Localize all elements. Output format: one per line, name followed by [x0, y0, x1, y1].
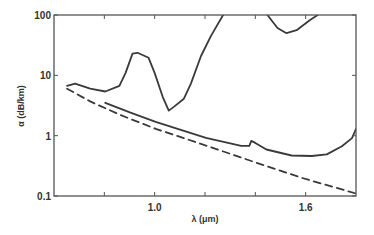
solid-series-line-0 [67, 15, 223, 111]
x-tick-label: 1.0 [148, 202, 162, 213]
axes: 1.01.61001010.1 [34, 10, 356, 213]
solid-series-line-1 [267, 15, 317, 33]
y-axis-label: α (dB/km) [16, 85, 26, 127]
y-tick-label: 100 [34, 10, 51, 21]
y-tick-label: 1 [45, 131, 51, 142]
plot-area [67, 15, 356, 194]
x-axis-label: λ (μm) [191, 214, 218, 224]
y-tick-label: 0.1 [37, 191, 51, 202]
x-tick-label: 1.6 [299, 202, 313, 213]
y-tick-label: 10 [40, 70, 52, 81]
loss-spectrum-chart: 1.01.61001010.1 λ (μm) α (dB/km) [0, 0, 374, 235]
solid-series-line-2 [105, 103, 356, 156]
